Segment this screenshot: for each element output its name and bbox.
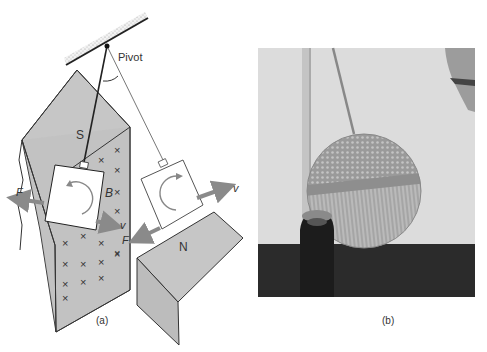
svg-text:×: × — [80, 230, 86, 242]
pendulum-plate-right — [141, 159, 203, 229]
svg-text:×: × — [114, 186, 120, 198]
magnetic-field-label: B — [105, 186, 113, 200]
svg-text:×: × — [98, 154, 104, 166]
svg-text:×: × — [80, 258, 86, 270]
south-pole-label: S — [76, 128, 84, 142]
svg-text:×: × — [114, 205, 120, 217]
force-arrow-right — [139, 228, 160, 238]
svg-text:×: × — [62, 292, 68, 304]
velocity-arrow-right — [197, 188, 225, 198]
eddy-current-figure: S × × × × × × × × × × × × × × × × × N — [0, 0, 487, 352]
svg-text:×: × — [114, 247, 120, 259]
force-label-left: F — [16, 186, 24, 198]
svg-text:×: × — [114, 144, 120, 156]
photo-floor — [258, 244, 475, 297]
svg-text:×: × — [62, 258, 68, 270]
panel-a-diagram: S × × × × × × × × × × × × × × × × × N — [16, 12, 243, 345]
pendulum-plate-left — [45, 161, 104, 230]
svg-text:×: × — [98, 237, 104, 249]
svg-text:×: × — [98, 272, 104, 284]
pivot-label: Pivot — [118, 51, 142, 63]
svg-text:×: × — [62, 237, 68, 249]
panel-b-photo: (b) — [258, 48, 475, 326]
panel-b-caption: (b) — [382, 315, 394, 326]
svg-text:×: × — [80, 276, 86, 288]
photo-magnet — [300, 210, 334, 297]
north-pole-label: N — [179, 240, 188, 254]
pivot-point — [105, 44, 110, 49]
panel-a-caption: (a) — [96, 315, 108, 326]
svg-text:×: × — [114, 164, 120, 176]
swing-angle-arc — [103, 76, 118, 81]
velocity-label-right: v — [233, 182, 240, 194]
svg-text:×: × — [98, 256, 104, 268]
svg-text:×: × — [62, 278, 68, 290]
